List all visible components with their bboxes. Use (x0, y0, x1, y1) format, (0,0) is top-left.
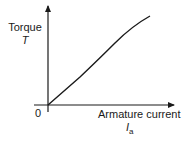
y-axis-label: Torque (6, 21, 44, 33)
torque-current-diagram: Torque T 0 Armature current Ia (0, 0, 185, 142)
x-axis-symbol: Ia (126, 121, 134, 138)
x-axis-label: Armature current (98, 108, 181, 120)
x-symbol-subscript: a (129, 127, 133, 136)
origin-label: 0 (35, 107, 41, 119)
torque-curve (48, 16, 150, 105)
y-axis-symbol: T (6, 34, 44, 46)
